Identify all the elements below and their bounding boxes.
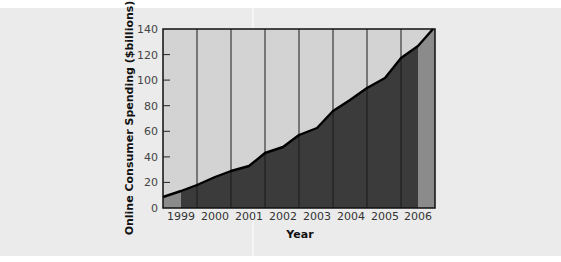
x-tick-labels: 1999 2000 2001 2002 2003 2004 2005 2006 <box>167 210 432 223</box>
y-tick-80: 80 <box>144 100 158 113</box>
y-tick-100: 100 <box>137 74 158 87</box>
y-tick-140: 140 <box>137 23 158 36</box>
y-tick-0: 0 <box>151 202 158 215</box>
x-tick-2006: 2006 <box>404 210 432 223</box>
y-axis-title: Online Consumer Spending ($billions) <box>123 1 136 236</box>
x-tick-2002: 2002 <box>269 210 297 223</box>
x-tick-2005: 2005 <box>371 210 399 223</box>
x-axis-title: Year <box>285 228 314 241</box>
x-tick-1999: 1999 <box>167 210 195 223</box>
area-chart: 0 20 40 60 80 100 120 140 1999 2000 2001… <box>0 0 561 262</box>
y-tick-labels: 0 20 40 60 80 100 120 140 <box>137 23 158 215</box>
x-tick-2001: 2001 <box>235 210 263 223</box>
y-tick-40: 40 <box>144 151 158 164</box>
edge-shading-end <box>418 29 435 208</box>
y-tick-120: 120 <box>137 49 158 62</box>
y-tick-20: 20 <box>144 176 158 189</box>
x-tick-2003: 2003 <box>303 210 331 223</box>
x-tick-2004: 2004 <box>337 210 365 223</box>
y-tick-60: 60 <box>144 125 158 138</box>
x-tick-2000: 2000 <box>201 210 229 223</box>
